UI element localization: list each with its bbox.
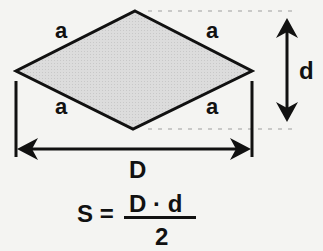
formula-denominator: 2 [155,225,168,249]
side-label-top-left: a [55,20,67,42]
side-label-bottom-left: a [55,96,67,118]
fraction-bar [124,216,196,219]
long-diagonal-label: D [129,158,146,182]
side-label-top-right: a [206,20,218,42]
short-diagonal-label: d [299,59,314,83]
formula-numerator: D · d [129,192,182,216]
formula-lhs: S = [77,202,114,226]
side-label-bottom-right: a [206,96,218,118]
